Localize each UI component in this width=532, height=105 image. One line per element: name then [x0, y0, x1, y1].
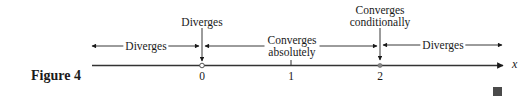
label-endpoint-2-converges-conditionally: Converges conditionally [350, 4, 411, 28]
label-endpoint-0-diverges: Diverges [181, 16, 222, 28]
filled-dot-2 [378, 63, 382, 67]
label-converges-absolutely-line2: absolutely [268, 46, 317, 58]
label-conditionally-line1: Converges [350, 4, 411, 16]
tick-label-1: 1 [288, 70, 294, 82]
label-diverges-left: Diverges [123, 40, 168, 52]
label-conditionally-line2: conditionally [350, 16, 411, 28]
figure-caption: Figure 4 [31, 68, 81, 84]
label-diverges-right: Diverges [420, 39, 465, 51]
label-converges-absolutely-line1: Converges [268, 34, 317, 46]
tick-label-2: 2 [377, 70, 383, 82]
open-circle-0 [200, 63, 205, 68]
tick-label-0: 0 [199, 70, 205, 82]
axis-variable-x: x [512, 57, 517, 72]
end-of-proof-square-icon [493, 87, 502, 96]
label-converges-absolutely: Converges absolutely [265, 34, 320, 58]
